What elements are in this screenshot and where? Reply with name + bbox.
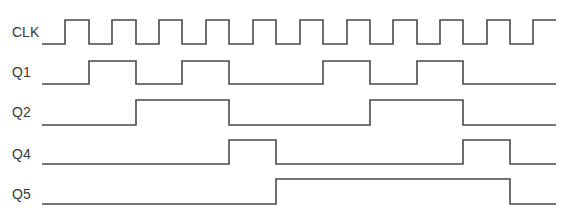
signal-row-q2: Q2 [12,100,556,125]
signal-label: Q4 [12,146,31,162]
waveform-q2 [42,100,556,125]
signal-label: Q5 [12,186,31,202]
signal-group: CLKQ1Q2Q4Q5 [12,20,556,204]
signal-row-q1: Q1 [12,61,556,84]
signal-row-q4: Q4 [12,140,556,164]
signal-label: Q2 [12,104,31,120]
signal-row-clk: CLK [12,20,556,44]
waveform-clk [42,20,556,44]
waveform-q4 [42,140,556,164]
signal-label: Q1 [12,64,31,80]
signal-label: CLK [12,24,40,40]
signal-row-q5: Q5 [12,179,556,204]
waveform-q1 [42,61,556,84]
timing-diagram: CLKQ1Q2Q4Q5 [0,0,565,216]
waveform-q5 [42,179,556,204]
